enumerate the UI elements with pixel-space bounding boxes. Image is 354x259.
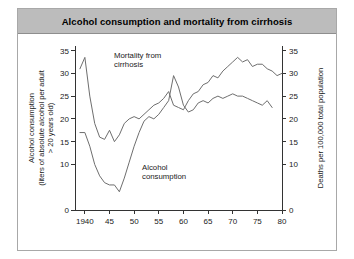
x-ticklabel: 55 bbox=[154, 217, 163, 226]
y-ticklabel-left: 30 bbox=[60, 69, 69, 78]
chart-annotations: Alcohol consumption(liters of absolute a… bbox=[27, 51, 325, 188]
x-ticklabel: 1940 bbox=[76, 217, 94, 226]
y-axis-title-right: Deaths per 100,000 total population bbox=[316, 68, 325, 188]
y-ticklabel-left: 25 bbox=[60, 92, 69, 101]
plot-area: 0101520253035010152025303519404550556065… bbox=[18, 34, 336, 250]
y-ticklabel-right: 0 bbox=[289, 206, 294, 215]
y-ticklabel-right: 25 bbox=[289, 92, 298, 101]
y-ticklabel-right: 10 bbox=[289, 160, 298, 169]
x-ticklabel: 75 bbox=[253, 217, 262, 226]
series-annotation-mortality: Mortality from bbox=[114, 51, 161, 60]
series-annotation-alcohol: consumption bbox=[142, 172, 186, 181]
y-ticklabel-left: 10 bbox=[60, 160, 69, 169]
y-ticklabel-left: 15 bbox=[60, 138, 69, 147]
line-chart: 0101520253035010152025303519404550556065… bbox=[18, 34, 336, 250]
chart-axes: 0101520253035010152025303519404550556065… bbox=[60, 46, 298, 226]
y-ticklabel-left: 35 bbox=[60, 47, 69, 56]
page-title: Alcohol consumption and mortality from c… bbox=[62, 16, 293, 27]
y-axis-title-left: > 20 years old) bbox=[46, 102, 55, 153]
series-annotation-alcohol: Alcohol bbox=[142, 163, 168, 172]
x-ticklabel: 80 bbox=[278, 217, 287, 226]
x-ticklabel: 70 bbox=[228, 217, 237, 226]
y-ticklabel-right: 20 bbox=[289, 115, 298, 124]
y-axis-title-left: Alcohol consumption bbox=[27, 93, 36, 163]
chart-figure: Alcohol consumption and mortality from c… bbox=[17, 8, 337, 251]
y-ticklabel-right: 15 bbox=[289, 138, 298, 147]
series-line bbox=[80, 57, 282, 141]
x-ticklabel: 45 bbox=[105, 217, 114, 226]
y-ticklabel-right: 30 bbox=[289, 69, 298, 78]
y-ticklabel-right: 35 bbox=[289, 47, 298, 56]
y-ticklabel-left: 0 bbox=[65, 206, 70, 215]
y-axis-title-left: (liters of absolute alcohol per adult bbox=[37, 69, 46, 186]
series-annotation-mortality: cirrhosis bbox=[114, 60, 143, 69]
x-ticklabel: 60 bbox=[179, 217, 188, 226]
x-ticklabel: 50 bbox=[130, 217, 139, 226]
chart-title-bar: Alcohol consumption and mortality from c… bbox=[18, 9, 336, 34]
x-ticklabel: 65 bbox=[204, 217, 213, 226]
y-ticklabel-left: 20 bbox=[60, 115, 69, 124]
